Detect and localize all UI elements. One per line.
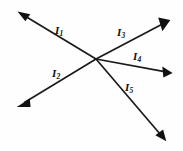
current-label-I1-subscript: 1 [59, 29, 63, 38]
branch-line-I2 [24, 59, 96, 103]
current-junction-diagram: I1 I2 I3 I4 I5 [0, 0, 183, 151]
current-label-I4-subscript: 4 [137, 55, 141, 64]
current-label-I1: I1 [55, 25, 63, 36]
branch-line-I4 [96, 59, 165, 72]
branch-I5 [96, 59, 166, 141]
arrow-head-I2 [17, 99, 31, 108]
current-label-I3: I3 [117, 27, 125, 38]
branch-I2 [17, 59, 96, 107]
current-label-I4: I4 [133, 51, 141, 62]
junction-diagram-canvas [0, 0, 183, 151]
current-label-I2-subscript: 2 [56, 72, 60, 81]
arrow-head-I1 [18, 12, 31, 22]
branch-line-I5 [96, 59, 159, 133]
current-label-I5-subscript: 5 [129, 86, 133, 95]
current-label-I3-subscript: 3 [121, 31, 125, 40]
current-label-I2: I2 [52, 68, 60, 79]
branch-line-I3 [96, 24, 163, 59]
current-label-I5: I5 [125, 82, 133, 93]
arrow-head-I4 [162, 67, 172, 78]
